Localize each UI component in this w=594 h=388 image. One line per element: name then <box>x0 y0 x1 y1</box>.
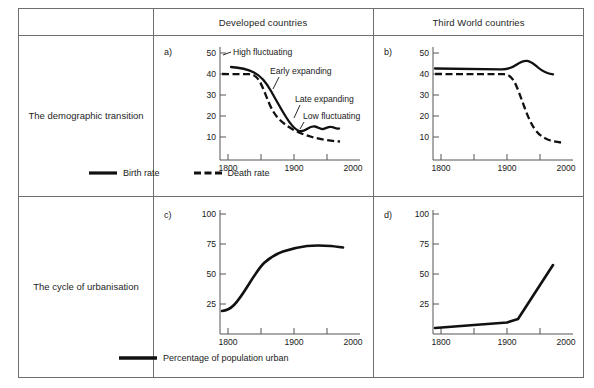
chart-c-xtick-1800: 1800 <box>218 337 237 347</box>
chart-a-annotations: High fluctuating Early expanding Late ex… <box>223 47 361 129</box>
chart-a-ytick-20: 20 <box>206 111 216 121</box>
chart-b-ytick-10: 10 <box>419 132 429 142</box>
chart-c-plot: 100 75 50 25 1800 1900 2000 <box>153 204 373 349</box>
chart-c-ytick-100: 100 <box>202 209 217 219</box>
chart-a-ytick-30: 30 <box>206 90 216 100</box>
chart-b-xtick-1800: 1800 <box>431 163 450 173</box>
chart-a-xtick-2000: 2000 <box>343 163 362 173</box>
chart-a-ytick-50: 50 <box>206 48 216 58</box>
chart-b-ytick-30: 30 <box>419 90 429 100</box>
figure-sheet: Developed countries Third World countrie… <box>0 0 594 388</box>
column-header-developed-label: Developed countries <box>219 17 308 28</box>
chart-b-xtick-1900: 1900 <box>497 163 516 173</box>
legend-swatch-solid-birth <box>89 170 117 176</box>
chart-b-series-birth-rate <box>435 61 553 75</box>
row-label-cycle-of-urbanisation-text: The cycle of urbanisation <box>33 281 139 293</box>
chart-d-ytick-50: 50 <box>419 269 429 279</box>
chart-b-ytick-40: 40 <box>419 69 429 79</box>
chart-c-axes <box>220 210 360 334</box>
column-header-third-world: Third World countries <box>373 9 584 35</box>
row-label-demographic-transition-text: The demographic transition <box>28 110 143 122</box>
legend-swatch-solid-urban <box>119 355 157 361</box>
chart-d-ytick-75: 75 <box>419 239 429 249</box>
chart-d-x-ticks: 1800 1900 2000 <box>431 328 575 347</box>
chart-a-ytick-40: 40 <box>206 69 216 79</box>
column-header-developed: Developed countries <box>153 9 373 35</box>
chart-c-ytick-50: 50 <box>206 269 216 279</box>
chart-cell-d: d) 100 75 50 25 <box>373 196 584 378</box>
row-label-cycle-of-urbanisation: The cycle of urbanisation <box>19 196 153 378</box>
chart-d-ytick-100: 100 <box>415 209 430 219</box>
chart-c-xtick-2000: 2000 <box>343 337 362 347</box>
chart-b-plot: 50 40 30 20 10 1800 1900 2000 <box>373 41 584 176</box>
chart-cell-b: b) 50 40 30 <box>373 35 584 196</box>
chart-c-xtick-1900: 1900 <box>284 337 303 347</box>
chart-d-series-percentage-urban <box>435 265 553 328</box>
chart-a-y-ticks: 50 40 30 20 10 <box>206 48 226 142</box>
legend-swatch-dashed-death <box>194 170 222 176</box>
legend-label-birth-rate: Birth rate <box>123 168 160 178</box>
chart-a-plot: 50 40 30 20 10 1800 1900 2000 <box>153 41 373 176</box>
chart-a-annotation-high-fluctuating: High fluctuating <box>233 47 292 57</box>
chart-d-axes <box>433 210 573 334</box>
chart-d-xtick-1900: 1900 <box>497 337 516 347</box>
chart-c-ytick-25: 25 <box>206 299 216 309</box>
chart-b-xtick-2000: 2000 <box>556 163 575 173</box>
chart-c-series-percentage-urban <box>222 245 343 311</box>
chart-d-xtick-2000: 2000 <box>556 337 575 347</box>
chart-c-ytick-75: 75 <box>206 239 216 249</box>
legend-urbanisation: Percentage of population urban <box>119 353 289 363</box>
chart-d-plot: 100 75 50 25 1800 1900 2000 <box>373 204 584 349</box>
legend-item-death-rate: Death rate <box>194 168 270 178</box>
chart-d-ytick-25: 25 <box>419 299 429 309</box>
legend-item-birth-rate: Birth rate <box>89 168 160 178</box>
chart-c-x-ticks: 1800 1900 2000 <box>218 328 362 347</box>
chart-a-ytick-10: 10 <box>206 132 216 142</box>
column-header-third-world-label: Third World countries <box>432 17 524 28</box>
chart-a-annotation-late-expanding: Late expanding <box>295 94 354 104</box>
figure-table-frame: Developed countries Third World countrie… <box>18 8 584 378</box>
legend-label-death-rate: Death rate <box>228 168 270 178</box>
chart-b-ytick-20: 20 <box>419 111 429 121</box>
legend-label-percentage-urban: Percentage of population urban <box>163 353 289 363</box>
chart-b-y-ticks: 50 40 30 20 10 <box>419 48 439 142</box>
chart-a-xtick-1900: 1900 <box>284 163 303 173</box>
legend-demographic-transition: Birth rate Death rate <box>89 168 270 178</box>
chart-d-xtick-1800: 1800 <box>431 337 450 347</box>
chart-b-x-ticks: 1800 1900 2000 <box>431 154 575 173</box>
chart-cell-c: c) 100 75 50 25 <box>153 196 373 378</box>
chart-d-y-ticks: 100 75 50 25 <box>415 209 439 309</box>
chart-b-ytick-50: 50 <box>419 48 429 58</box>
chart-a-annotation-low-fluctuating: Low fluctuating <box>303 111 361 121</box>
chart-c-y-ticks: 100 75 50 25 <box>202 209 226 309</box>
chart-a-annotation-early-expanding: Early expanding <box>270 66 332 76</box>
chart-b-series-death-rate <box>435 74 561 143</box>
chart-b-axes <box>433 47 573 160</box>
